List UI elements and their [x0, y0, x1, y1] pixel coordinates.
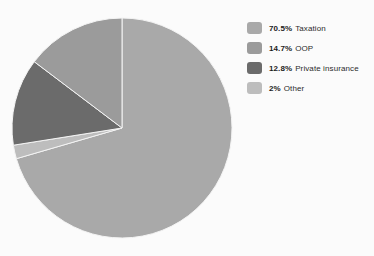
legend-percent: 14.7%	[269, 44, 292, 53]
legend-item[interactable]: 12.8%Private insurance	[247, 58, 374, 78]
legend-entry-text: 12.8%Private insurance	[269, 64, 359, 73]
legend-percent: 12.8%	[269, 64, 292, 73]
pie-slice-group	[12, 18, 232, 238]
chart-legend: 70.5%Taxation 14.7%OOP 12.8%Private insu…	[247, 18, 374, 98]
legend-entry-text: 14.7%OOP	[269, 44, 313, 53]
pie-plot-area	[0, 0, 246, 256]
legend-label: Private insurance	[295, 64, 359, 73]
legend-percent: 70.5%	[269, 24, 292, 33]
legend-label: Taxation	[295, 24, 326, 33]
legend-color-swatch	[247, 82, 262, 94]
legend-item[interactable]: 2%Other	[247, 78, 374, 98]
legend-entry-text: 70.5%Taxation	[269, 24, 326, 33]
pie-svg	[0, 0, 246, 256]
legend-label: OOP	[295, 44, 313, 53]
legend-color-swatch	[247, 42, 262, 54]
legend-color-swatch	[247, 62, 262, 74]
legend-percent: 2%	[269, 84, 281, 93]
legend-entry-text: 2%Other	[269, 84, 304, 93]
legend-label: Other	[284, 84, 305, 93]
legend-item[interactable]: 14.7%OOP	[247, 38, 374, 58]
legend-color-swatch	[247, 22, 262, 34]
pie-chart-figure: 70.5%Taxation 14.7%OOP 12.8%Private insu…	[0, 0, 374, 256]
legend-item[interactable]: 70.5%Taxation	[247, 18, 374, 38]
